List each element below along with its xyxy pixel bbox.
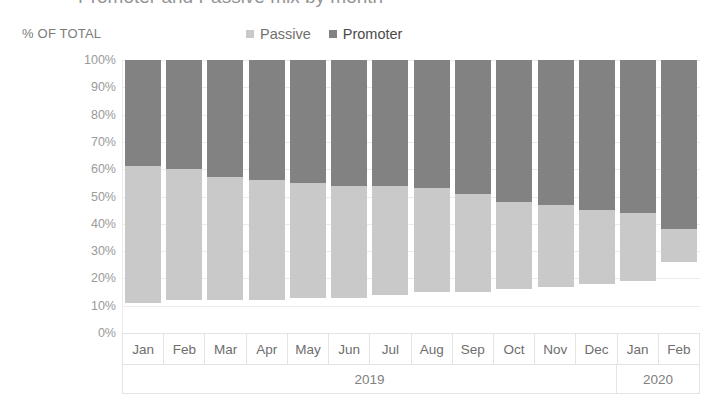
month-axis: JanFebMarAprMayJunJulAugSepOctNovDecJanF… bbox=[122, 334, 700, 364]
y-axis-tick-label: 50% bbox=[36, 190, 116, 204]
y-axis-tick-label: 60% bbox=[36, 162, 116, 176]
bar-segment-passive[interactable] bbox=[661, 229, 697, 262]
bar-segment-promoter[interactable] bbox=[372, 60, 408, 186]
stacked-bar-chart: 100%90%80%70%60%50%40%30%20%10%0% JanFeb… bbox=[0, 0, 716, 408]
bar-column[interactable] bbox=[249, 60, 285, 333]
y-axis-tick-label: 10% bbox=[36, 299, 116, 313]
month-axis-label: Mar bbox=[205, 334, 246, 364]
y-axis-tick-label: 90% bbox=[36, 80, 116, 94]
bar-segment-passive[interactable] bbox=[372, 186, 408, 295]
bar-column[interactable] bbox=[579, 60, 615, 333]
month-axis-label: Oct bbox=[494, 334, 535, 364]
bar-column[interactable] bbox=[620, 60, 656, 333]
bar-column[interactable] bbox=[538, 60, 574, 333]
plot-area bbox=[122, 60, 700, 333]
bar-column[interactable] bbox=[290, 60, 326, 333]
bar-segment-promoter[interactable] bbox=[455, 60, 491, 194]
y-axis-tick-label: 0% bbox=[36, 326, 116, 340]
bar-segment-promoter[interactable] bbox=[331, 60, 367, 186]
bar-column[interactable] bbox=[455, 60, 491, 333]
bar-segment-passive[interactable] bbox=[331, 186, 367, 298]
bar-segment-promoter[interactable] bbox=[661, 60, 697, 229]
bar-segment-passive[interactable] bbox=[538, 205, 574, 287]
y-axis-tick-label: 40% bbox=[36, 217, 116, 231]
bar-segment-passive[interactable] bbox=[249, 180, 285, 300]
bar-segment-promoter[interactable] bbox=[290, 60, 326, 183]
bar-segment-passive[interactable] bbox=[579, 210, 615, 284]
year-axis: 20192020 bbox=[122, 365, 700, 393]
bar-segment-promoter[interactable] bbox=[249, 60, 285, 180]
bar-column[interactable] bbox=[496, 60, 532, 333]
year-axis-label: 2020 bbox=[617, 365, 700, 393]
month-axis-label: Feb bbox=[659, 334, 700, 364]
month-axis-label: Apr bbox=[247, 334, 288, 364]
bar-segment-passive[interactable] bbox=[455, 194, 491, 292]
bar-segment-promoter[interactable] bbox=[125, 60, 161, 166]
month-axis-label: Aug bbox=[412, 334, 453, 364]
bar-segment-promoter[interactable] bbox=[207, 60, 243, 177]
month-axis-label: Feb bbox=[164, 334, 205, 364]
bar-segment-passive[interactable] bbox=[620, 213, 656, 281]
bar-segment-passive[interactable] bbox=[496, 202, 532, 289]
y-axis-tick-label: 30% bbox=[36, 244, 116, 258]
month-axis-label: Jan bbox=[618, 334, 659, 364]
y-axis-tick-labels: 100%90%80%70%60%50%40%30%20%10%0% bbox=[36, 60, 116, 333]
month-axis-label: Sep bbox=[453, 334, 494, 364]
y-axis-tick-label: 80% bbox=[36, 108, 116, 122]
bar-column[interactable] bbox=[414, 60, 450, 333]
y-axis-tick-label: 70% bbox=[36, 135, 116, 149]
bar-segment-passive[interactable] bbox=[414, 188, 450, 292]
y-axis-tick-label: 100% bbox=[36, 53, 116, 67]
bar-column[interactable] bbox=[661, 60, 697, 333]
month-axis-label: Jan bbox=[122, 334, 164, 364]
bar-segment-passive[interactable] bbox=[125, 166, 161, 303]
month-axis-label: Dec bbox=[576, 334, 617, 364]
bar-column[interactable] bbox=[372, 60, 408, 333]
y-axis-tick-label: 20% bbox=[36, 271, 116, 285]
bar-column[interactable] bbox=[125, 60, 161, 333]
month-axis-label: Jun bbox=[329, 334, 370, 364]
bar-column[interactable] bbox=[207, 60, 243, 333]
bar-segment-promoter[interactable] bbox=[538, 60, 574, 205]
bar-segment-passive[interactable] bbox=[207, 177, 243, 300]
year-axis-label: 2019 bbox=[122, 365, 617, 393]
bar-segment-passive[interactable] bbox=[166, 169, 202, 300]
bar-segment-promoter[interactable] bbox=[620, 60, 656, 213]
bar-segment-promoter[interactable] bbox=[166, 60, 202, 169]
bar-column[interactable] bbox=[331, 60, 367, 333]
month-axis-label: May bbox=[288, 334, 329, 364]
month-axis-label: Nov bbox=[535, 334, 576, 364]
bar-column[interactable] bbox=[166, 60, 202, 333]
bar-segment-passive[interactable] bbox=[290, 183, 326, 298]
year-axis-rule bbox=[122, 393, 700, 394]
bar-segment-promoter[interactable] bbox=[579, 60, 615, 210]
bar-segment-promoter[interactable] bbox=[414, 60, 450, 188]
bar-segment-promoter[interactable] bbox=[496, 60, 532, 202]
month-axis-label: Jul bbox=[370, 334, 411, 364]
